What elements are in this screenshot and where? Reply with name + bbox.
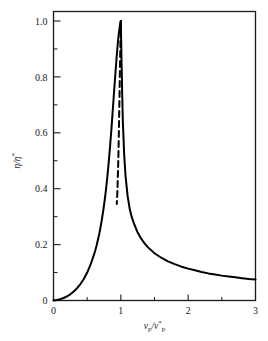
y-tick-label: 0 (43, 295, 48, 306)
chart-background (0, 0, 268, 341)
x-tick-label: 1 (118, 305, 123, 316)
x-tick-label: 2 (186, 305, 191, 316)
y-tick-label: 0.6 (35, 127, 48, 138)
y-tick-label: 0.4 (35, 183, 48, 194)
x-tick-label: 0 (51, 305, 56, 316)
y-tick-label: 1.0 (35, 16, 48, 27)
y-tick-label: 0.8 (35, 72, 48, 83)
chart-figure: 0123 00.20.40.60.81.0 vp/v*p η/η* (0, 0, 268, 341)
y-tick-label: 0.2 (35, 239, 48, 250)
resonance-curve-chart: 0123 00.20.40.60.81.0 vp/v*p η/η* (0, 0, 268, 341)
x-tick-label: 3 (253, 305, 258, 316)
